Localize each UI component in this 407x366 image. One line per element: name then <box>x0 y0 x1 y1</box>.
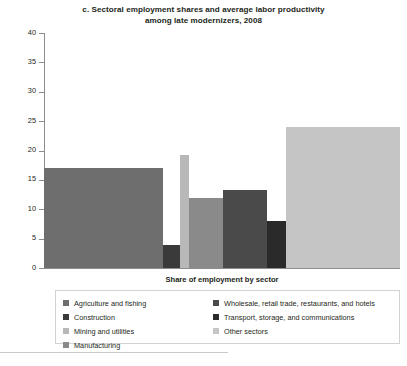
y-axis-tick-label: 25 <box>10 117 36 125</box>
bar-series <box>44 33 400 268</box>
y-axis-tick-label: 20 <box>10 146 36 154</box>
chart-title: c. Sectoral employment shares and averag… <box>0 4 407 26</box>
legend-swatch-icon <box>63 342 69 348</box>
legend-item[interactable]: Transport, storage, and communications <box>213 310 401 324</box>
y-axis-tick-label: 40 <box>10 29 36 37</box>
y-axis-tick <box>39 268 44 269</box>
legend-swatch-icon <box>63 300 69 306</box>
chart-title-line-2: among late modernizers, 2008 <box>0 15 407 26</box>
legend-item-label: Wholesale, retail trade, restaurants, an… <box>224 299 375 308</box>
y-axis-tick-label: 15 <box>10 175 36 183</box>
y-axis-tick-label: 0 <box>10 264 36 272</box>
y-axis-tick-label: 5 <box>10 234 36 242</box>
legend-item[interactable]: Mining and utilities <box>63 324 213 338</box>
legend-swatch-icon <box>63 328 69 334</box>
legend-item[interactable]: Agriculture and fishing <box>63 296 213 310</box>
chart-figure: c. Sectoral employment shares and averag… <box>0 0 407 366</box>
chart-legend: Agriculture and fishingConstructionMinin… <box>55 290 400 344</box>
legend-column-left: Agriculture and fishingConstructionMinin… <box>63 296 213 352</box>
bar-construction <box>163 245 179 269</box>
legend-item-label: Mining and utilities <box>74 327 134 336</box>
legend-item[interactable]: Manufacturing <box>63 338 213 352</box>
x-axis-line <box>44 268 400 269</box>
y-axis-tick-label: 30 <box>10 87 36 95</box>
bar-transport-storage-and-communications <box>267 221 286 268</box>
bar-mining-and-utilities <box>180 155 189 268</box>
legend-item[interactable]: Wholesale, retail trade, restaurants, an… <box>213 296 401 310</box>
x-axis-label: Share of employment by sector <box>44 275 400 284</box>
bar-wholesale-retail-trade-restaurants-and-hotels <box>223 190 267 268</box>
legend-item-label: Other sectors <box>224 327 268 336</box>
legend-item[interactable]: Construction <box>63 310 213 324</box>
legend-item-label: Construction <box>74 313 115 322</box>
legend-column-right: Wholesale, retail trade, restaurants, an… <box>213 296 401 338</box>
y-axis-tick-label: 35 <box>10 58 36 66</box>
bar-agriculture-and-fishing <box>44 168 163 268</box>
legend-item-label: Agriculture and fishing <box>74 299 146 308</box>
bar-manufacturing <box>189 198 223 269</box>
source-divider <box>0 352 228 353</box>
legend-swatch-icon <box>213 300 219 306</box>
bar-other-sectors <box>286 127 400 268</box>
legend-item-label: Transport, storage, and communications <box>224 313 354 322</box>
legend-swatch-icon <box>63 314 69 320</box>
legend-item[interactable]: Other sectors <box>213 324 401 338</box>
legend-swatch-icon <box>213 314 219 320</box>
chart-title-line-1: c. Sectoral employment shares and averag… <box>0 4 407 15</box>
legend-swatch-icon <box>213 328 219 334</box>
y-axis-tick-label: 10 <box>10 205 36 213</box>
legend-item-label: Manufacturing <box>74 341 120 350</box>
